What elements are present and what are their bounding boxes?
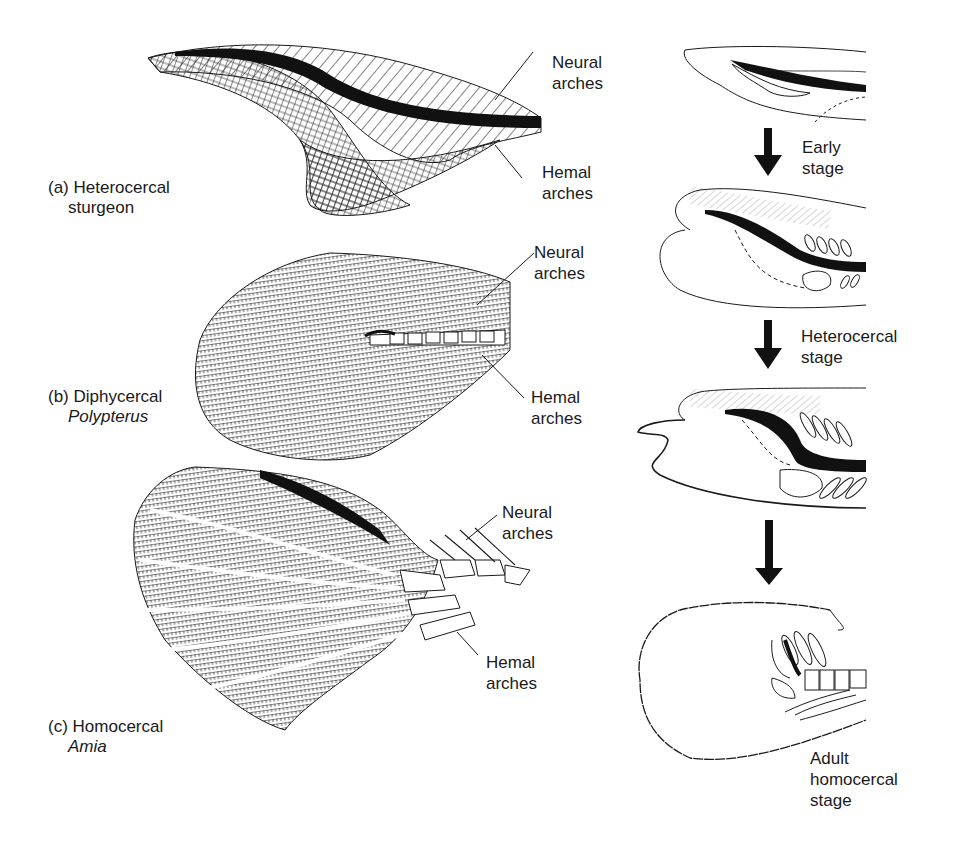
stage-larval-drawing [684, 46, 866, 122]
stage-early-drawing [660, 189, 866, 308]
caption-heterocercal-sturgeon: (a) Heterocercal sturgeon [48, 178, 170, 218]
fin-homocercal-amia [134, 467, 530, 730]
fin-diphycercal-polypterus [195, 253, 510, 460]
caption-diphycercal-polypterus: (b) Diphycercal Polypterus [48, 387, 162, 427]
label-hemal-arches-c: Hemal arches [486, 652, 537, 694]
label-hemal-arches-a: Hemal arches [542, 162, 593, 204]
stage-heterocercal-drawing [638, 388, 869, 508]
label-heterocercal-stage: Heterocercal stage [801, 326, 897, 368]
arrow-down-icon [754, 320, 782, 369]
label-neural-arches-a: Neural arches [552, 52, 603, 94]
hemal-arches-pointer-a [495, 145, 522, 178]
caption-homocercal-amia: (c) Homocercal Amia [48, 717, 163, 757]
label-neural-arches-b: Neural arches [534, 242, 585, 284]
label-adult-homocercal-stage: Adult homocercal stage [810, 748, 898, 811]
fin-heterocercal-sturgeon [148, 45, 541, 216]
label-early-stage: Early stage [802, 137, 844, 179]
caption-line1: (b) Diphycercal [48, 387, 162, 406]
caption-line1: (c) Homocercal [48, 717, 163, 736]
stage-adult-homocercal-drawing [639, 603, 866, 760]
caption-line2: Polypterus [48, 407, 162, 427]
caption-line2: sturgeon [48, 198, 170, 218]
neural-arches-pointer-c [466, 515, 497, 540]
label-neural-arches-c: Neural arches [502, 502, 553, 544]
label-hemal-arches-b: Hemal arches [531, 387, 582, 429]
arrow-down-icon [755, 520, 783, 585]
neural-arches-pointer-a [495, 52, 533, 100]
hemal-arches-pointer-b [482, 355, 524, 398]
arrow-down-icon [754, 128, 782, 176]
hemal-arches-pointer-c [457, 632, 478, 655]
caption-line2: Amia [48, 737, 163, 757]
caption-line1: (a) Heterocercal [48, 178, 170, 197]
